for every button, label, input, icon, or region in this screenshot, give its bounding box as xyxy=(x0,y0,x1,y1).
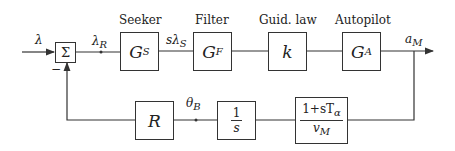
theta-B-label: θB xyxy=(186,96,201,112)
input-lambda-label: λ xyxy=(35,33,43,47)
minus-sign: − xyxy=(51,62,61,76)
s-lambda-S-label: sλS xyxy=(166,33,187,49)
filter-block: GF xyxy=(193,32,232,71)
guidance-law-caption: Guid. law xyxy=(259,13,317,27)
guidance-law-block: k xyxy=(268,32,307,71)
integrator-block: 1 s xyxy=(217,101,256,140)
lambda-R-label: λR xyxy=(92,34,107,50)
R-block: R xyxy=(135,101,174,140)
autopilot-block: GA xyxy=(342,32,381,71)
seeker-caption: Seeker xyxy=(119,13,162,27)
a-M-label: aM xyxy=(405,32,422,48)
aerodynamics-block: 1+sTα vM xyxy=(295,97,348,144)
sigma-symbol: Σ xyxy=(61,45,70,60)
autopilot-caption: Autopilot xyxy=(335,13,391,27)
filter-caption: Filter xyxy=(195,13,229,27)
summing-junction: Σ xyxy=(55,42,76,63)
seeker-block: GS xyxy=(120,32,159,71)
